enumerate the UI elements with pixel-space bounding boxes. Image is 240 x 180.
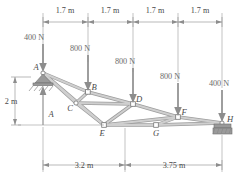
support-a-hatch-0 — [29, 86, 33, 91]
joint-label-G: G — [153, 128, 160, 138]
top-arrow-4l — [216, 20, 222, 24]
bottom-arrow-1l — [216, 163, 222, 167]
top-arrow-1r — [88, 20, 94, 24]
support-roller-h — [213, 124, 232, 134]
vertical-dimension-group: 2 m — [5, 77, 31, 125]
bottom-dimension-label-1: 3.75 m — [163, 161, 186, 170]
top-arrow-2l — [127, 20, 133, 24]
top-dimension-label-0: 1.7 m — [56, 6, 75, 15]
bottom-arrow-0r — [43, 163, 49, 167]
load-a-head — [39, 63, 47, 72]
top-arrow-1l — [82, 20, 88, 24]
load-b-label: 800 N — [70, 44, 90, 53]
truss-figure: 1.7 m 1.7 m 1.7 m 1.7 m — [0, 0, 240, 180]
load-f-label: 800 N — [160, 72, 180, 81]
load-a-label: 400 N — [24, 33, 44, 42]
joint-label-F: F — [180, 107, 187, 117]
member-CD-inner — [76, 103, 133, 104]
reaction-a-head — [40, 86, 47, 95]
bottom-dimension-group: 3.2 m 3.75 m — [43, 127, 222, 172]
load-arrow-d: 800 N — [115, 57, 137, 103]
top-arrow-0r — [43, 20, 49, 24]
reaction-a-label: A — [47, 109, 54, 119]
load-h-label: 400 N — [209, 79, 229, 88]
vertical-dim-arrow-bottom — [13, 119, 17, 125]
load-arrow-f: 800 N — [160, 72, 182, 116]
top-arrow-3r — [178, 20, 184, 24]
bottom-arrow-1r — [125, 163, 131, 167]
joint-C — [74, 101, 78, 105]
joint-label-C: C — [67, 103, 73, 113]
support-a-hatch-1 — [34, 86, 38, 91]
joint-G — [154, 123, 159, 128]
support-h-plate — [214, 124, 231, 128]
joint-label-B: B — [91, 82, 97, 92]
top-dimension-label-3: 1.7 m — [191, 6, 210, 15]
support-a-hatch-4 — [49, 86, 53, 91]
member-DF-inner — [133, 104, 178, 117]
vertical-dimension-label: 2 m — [5, 97, 18, 106]
joint-label-H: H — [226, 114, 234, 124]
top-arrow-2r — [133, 20, 139, 24]
bottom-arrow-0l — [119, 163, 125, 167]
reaction-arrow-a: A — [40, 86, 55, 125]
top-dimension-label-2: 1.7 m — [146, 6, 165, 15]
vertical-dim-arrow-top — [13, 77, 17, 83]
bottom-dimension-label-0: 3.2 m — [75, 161, 94, 170]
load-h-head — [218, 113, 226, 122]
top-dimension-label-1: 1.7 m — [101, 6, 120, 15]
figure-canvas: 1.7 m 1.7 m 1.7 m 1.7 m — [0, 0, 240, 180]
joint-label-E: E — [98, 128, 105, 138]
load-d-label: 800 N — [115, 57, 135, 66]
top-arrow-3l — [172, 20, 178, 24]
support-a-base — [33, 83, 53, 86]
joint-label-A: A — [32, 62, 39, 72]
